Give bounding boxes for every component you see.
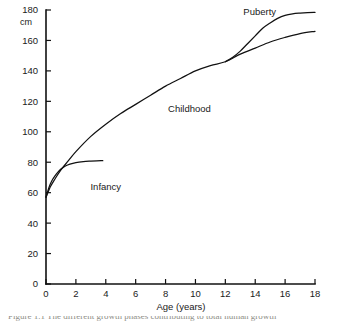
y-tick-label: 120	[22, 96, 38, 107]
y-tick-label: 60	[27, 187, 38, 198]
x-tick-label: 4	[103, 288, 108, 299]
y-axis-unit-label: cm	[20, 17, 32, 27]
x-tick-label: 12	[220, 288, 231, 299]
figure-caption-text: Figure 1.1 The different growth phases c…	[8, 316, 338, 321]
y-tick-label: 0	[33, 278, 38, 289]
x-tick-label: 0	[43, 288, 48, 299]
chart-annotations: InfancyChildhoodPuberty	[90, 6, 276, 192]
chart-axes	[46, 10, 315, 284]
y-tick-label: 100	[22, 126, 38, 137]
x-tick-label: 14	[250, 288, 261, 299]
x-tick-label: 8	[163, 288, 168, 299]
curve-childhood-component	[46, 31, 315, 197]
x-axis-tick-labels: 024681012141618	[43, 288, 320, 299]
x-tick-label: 10	[190, 288, 201, 299]
y-tick-label: 80	[27, 157, 38, 168]
x-tick-label: 2	[73, 288, 78, 299]
growth-chart-figure: 020406080100120140160180 024681012141618…	[0, 0, 338, 325]
y-tick-label: 160	[22, 35, 38, 46]
y-tick-label: 180	[22, 4, 38, 15]
x-axis-title: Age (years)	[156, 301, 205, 312]
x-tick-label: 16	[280, 288, 291, 299]
y-tick-label: 40	[27, 218, 38, 229]
x-tick-label: 18	[310, 288, 321, 299]
growth-curve-plot: 020406080100120140160180 024681012141618…	[0, 0, 338, 325]
annotation-childhood: Childhood	[168, 103, 211, 114]
annotation-puberty: Puberty	[243, 6, 276, 17]
y-tick-label: 20	[27, 248, 38, 259]
figure-caption-clipped: Figure 1.1 The different growth phases c…	[0, 316, 338, 325]
annotation-infancy: Infancy	[90, 181, 121, 192]
x-tick-label: 6	[133, 288, 138, 299]
y-tick-label: 140	[22, 65, 38, 76]
y-axis-tick-labels: 020406080100120140160180	[22, 4, 38, 289]
